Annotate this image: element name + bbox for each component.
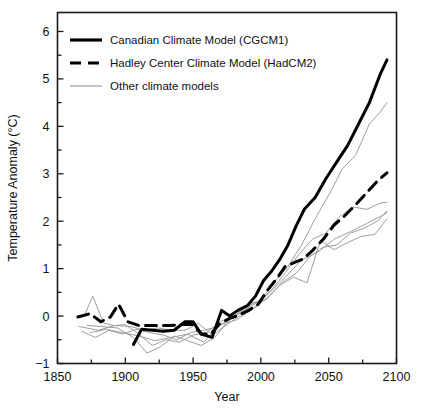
y-axis-tick-label: 4 (43, 120, 50, 134)
climate-projection-figure: 185019001950200020502100Year−10123456Tem… (0, 0, 424, 411)
y-axis-tick-label: 2 (43, 215, 50, 229)
y-axis-tick-label: 5 (43, 72, 50, 86)
y-axis-tick-label: 3 (43, 167, 50, 181)
y-axis-tick-label: 1 (43, 262, 50, 276)
y-axis-title: Temperature Anomaly (°C) (6, 114, 20, 261)
legend-label-1: Canadian Climate Model (CGCM1) (110, 34, 288, 46)
x-axis-tick-label: 2050 (315, 370, 343, 384)
legend-label-3: Other climate models (110, 80, 219, 92)
x-axis-tick-label: 2000 (247, 370, 275, 384)
data-lines-group (78, 60, 387, 353)
x-axis-tick-label: 1850 (44, 370, 72, 384)
y-axis-tick-label: 6 (43, 25, 50, 39)
other-model-line-1 (85, 103, 387, 346)
x-axis-tick-label: 1900 (111, 370, 139, 384)
hadcm2-line (78, 173, 387, 334)
x-axis-tick-label: 2100 (383, 370, 411, 384)
chart-canvas: 185019001950200020502100Year−10123456Tem… (0, 0, 424, 411)
other-model-line-3 (87, 211, 387, 353)
x-axis-tick-label: 1950 (179, 370, 207, 384)
x-axis-title: Year (214, 390, 239, 404)
y-axis-tick-label: −1 (35, 357, 49, 371)
y-axis-tick-label: 0 (43, 310, 50, 324)
legend-label-2: Hadley Center Climate Model (HadCM2) (110, 57, 317, 69)
